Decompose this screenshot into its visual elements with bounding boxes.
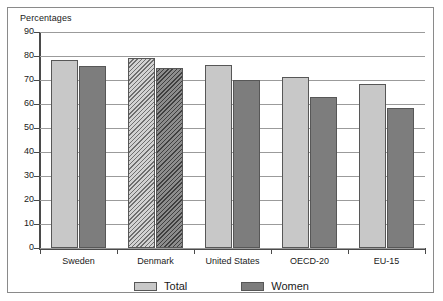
bar-women: [387, 108, 414, 248]
y-tick-value: 10: [24, 219, 34, 228]
y-tick-label: 30: [16, 171, 34, 181]
y-tick-value: 30: [24, 171, 34, 180]
x-tick-label: United States: [194, 256, 271, 266]
bar-women: [310, 97, 337, 248]
y-tick-label: 0: [16, 243, 34, 253]
chart-frame: Percentages 0102030405060708090 SwedenDe…: [7, 7, 434, 293]
x-tick-label: Sweden: [40, 256, 117, 266]
y-tick-label: 50: [16, 123, 34, 133]
bar-total: [359, 84, 386, 248]
y-tick-label: 20: [16, 195, 34, 205]
x-tick-mark: [194, 249, 195, 254]
y-tick-value: 70: [24, 75, 34, 84]
y-tick-label: 70: [16, 75, 34, 85]
gridline: [40, 248, 425, 249]
y-tick-value: 20: [24, 195, 34, 204]
bar-group: [348, 32, 425, 248]
y-tick-label: 90: [16, 27, 34, 37]
y-tick-label: 10: [16, 219, 34, 229]
legend-label: Total: [164, 280, 187, 292]
y-tick-value: 90: [24, 27, 34, 36]
bar-total: [205, 65, 232, 248]
legend-item-women[interactable]: Women: [241, 280, 309, 292]
bar-group: [117, 32, 194, 248]
legend-item-total[interactable]: Total: [134, 280, 187, 292]
y-tick-label: 80: [16, 51, 34, 61]
bar-group: [40, 32, 117, 248]
x-tick-mark: [40, 249, 41, 254]
plot-area: [40, 32, 425, 248]
x-tick-mark: [117, 249, 118, 254]
y-tick-value: 60: [24, 99, 34, 108]
y-tick-label: 40: [16, 147, 34, 157]
y-tick-value: 80: [24, 51, 34, 60]
legend-swatch-icon: [134, 282, 157, 291]
x-tick-label: Denmark: [117, 256, 194, 266]
bar-group: [194, 32, 271, 248]
y-tick-label: 60: [16, 99, 34, 109]
y-tick-value: 40: [24, 147, 34, 156]
x-tick-mark: [348, 249, 349, 254]
x-tick-label: EU-15: [348, 256, 425, 266]
bar-total: [128, 58, 155, 248]
y-tick-value: 50: [24, 123, 34, 132]
bar-women: [156, 68, 183, 248]
bar-group: [271, 32, 348, 248]
bar-total: [282, 77, 309, 248]
bar-total: [51, 60, 78, 248]
x-tick-mark: [425, 249, 426, 254]
x-tick-mark: [271, 249, 272, 254]
chart-legend: TotalWomen: [8, 278, 435, 294]
bar-women: [79, 66, 106, 248]
legend-swatch-icon: [241, 282, 264, 291]
x-tick-label: OECD-20: [271, 256, 348, 266]
legend-label: Women: [271, 280, 309, 292]
bar-women: [233, 80, 260, 248]
